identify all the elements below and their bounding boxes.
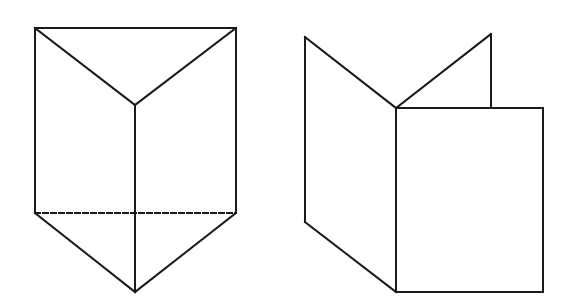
folded-panels xyxy=(305,34,543,292)
edge xyxy=(135,213,236,292)
edge xyxy=(35,213,135,292)
edge xyxy=(35,28,135,105)
diagram-canvas: triangular-prism folded-panels xyxy=(0,0,563,307)
triangular-prism xyxy=(35,28,236,292)
diagram-svg xyxy=(0,0,563,307)
edge xyxy=(305,37,396,108)
edge xyxy=(396,34,491,108)
edge xyxy=(305,222,396,292)
edge xyxy=(135,28,236,105)
